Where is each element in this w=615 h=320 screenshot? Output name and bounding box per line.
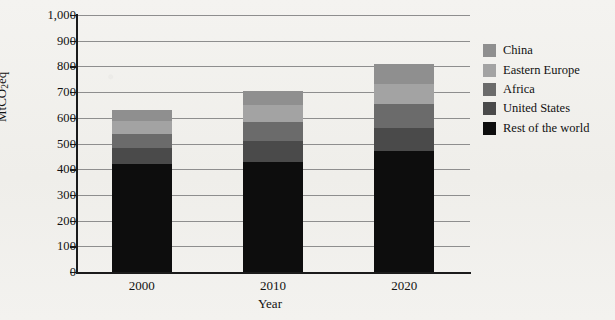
- y-axis-title-pre: MtCO: [0, 89, 9, 122]
- legend-label: Africa: [503, 82, 535, 97]
- bar-segment-china[interactable]: [112, 110, 172, 121]
- bar-segment-rest-of-the-world[interactable]: [374, 151, 434, 272]
- bar-segment-africa[interactable]: [112, 134, 172, 148]
- x-axis-title: Year: [0, 296, 540, 312]
- y-axis-line: [76, 14, 78, 273]
- bar-segment-rest-of-the-world[interactable]: [112, 164, 172, 272]
- y-tick-label: 100: [12, 240, 76, 253]
- legend-swatch-icon: [483, 83, 496, 96]
- plot-area: [76, 15, 470, 272]
- legend-swatch-icon: [483, 122, 496, 135]
- y-tick-label: 0: [12, 266, 76, 279]
- bar-segment-united-states[interactable]: [243, 141, 303, 161]
- legend-label: Rest of the world: [503, 121, 589, 136]
- legend-item-africa[interactable]: Africa: [483, 80, 615, 99]
- bar-segment-africa[interactable]: [243, 122, 303, 141]
- legend-swatch-icon: [483, 44, 496, 57]
- legend-label: Eastern Europe: [503, 63, 580, 78]
- legend-swatch-icon: [483, 102, 496, 115]
- y-axis-tick-labels: 01002003004005006007008009001,000: [0, 0, 76, 320]
- y-axis-title-subscript: 2: [0, 84, 10, 89]
- cropped-chart-title: [95, 0, 455, 5]
- y-tick-label: 1,000: [12, 9, 76, 22]
- legend-swatch-icon: [483, 64, 496, 77]
- legend-item-united-states[interactable]: United States: [483, 99, 615, 118]
- bar-segment-eastern-europe[interactable]: [243, 105, 303, 122]
- chart-legend: ChinaEastern EuropeAfricaUnited StatesRe…: [483, 41, 615, 138]
- legend-item-rest-of-the-world[interactable]: Rest of the world: [483, 119, 615, 138]
- x-tick-label: 2020: [344, 278, 464, 294]
- y-tick-label: 600: [12, 112, 76, 125]
- x-tick-label: 2000: [82, 278, 202, 294]
- bar-segment-rest-of-the-world[interactable]: [243, 162, 303, 273]
- bar-segment-united-states[interactable]: [374, 128, 434, 152]
- y-tick-label: 200: [12, 215, 76, 228]
- bar-segment-africa[interactable]: [374, 104, 434, 127]
- legend-label: United States: [503, 101, 570, 116]
- y-tick-label: 700: [12, 86, 76, 99]
- bar-2010[interactable]: [243, 91, 303, 272]
- bar-segment-eastern-europe[interactable]: [374, 84, 434, 104]
- y-tick-label: 500: [12, 138, 76, 151]
- bar-2000[interactable]: [112, 110, 172, 272]
- x-axis-line: [76, 272, 471, 274]
- bar-2020[interactable]: [374, 64, 434, 272]
- legend-label: China: [503, 43, 533, 58]
- gridline: [76, 15, 470, 16]
- bar-segment-united-states[interactable]: [112, 148, 172, 164]
- y-tick-label: 900: [12, 35, 76, 48]
- gridline: [76, 41, 470, 42]
- bar-segment-china[interactable]: [243, 91, 303, 105]
- y-tick-label: 400: [12, 163, 76, 176]
- y-tick-label: 300: [12, 189, 76, 202]
- legend-item-eastern-europe[interactable]: Eastern Europe: [483, 60, 615, 79]
- bar-segment-china[interactable]: [374, 64, 434, 85]
- legend-item-china[interactable]: China: [483, 41, 615, 60]
- y-axis-title-post: eq: [0, 72, 9, 84]
- x-tick-label: 2010: [213, 278, 333, 294]
- y-axis-title: MtCO2eq: [0, 72, 10, 122]
- stacked-bar-chart: 01002003004005006007008009001,000 MtCO2e…: [0, 0, 615, 320]
- y-tick-label: 800: [12, 60, 76, 73]
- bar-segment-eastern-europe[interactable]: [112, 121, 172, 134]
